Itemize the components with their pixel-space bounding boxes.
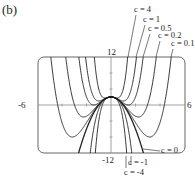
x-min-label: -6 (18, 100, 26, 110)
svg-text:c = 0: c = 0 (161, 145, 178, 155)
annotation-c-neg1: c = -1 (128, 156, 148, 167)
x-max-label: 6 (187, 100, 192, 110)
annotation-c-1: c = 1 (136, 14, 160, 57)
svg-text:c = -4: c = -4 (124, 167, 145, 177)
y-min-label: -12 (102, 155, 114, 165)
y-max-label: 12 (107, 47, 116, 57)
svg-text:c = 0.1: c = 0.1 (171, 38, 194, 48)
chart: -6 6 12 -12 c = 4 c = 1 c = 0.5 c = 0.2 … (0, 0, 195, 182)
svg-text:c = 4: c = 4 (134, 4, 152, 14)
annotation-c-0.1: c = 0.1 (171, 38, 194, 57)
annotation-c-0: c = 0 (143, 145, 178, 155)
